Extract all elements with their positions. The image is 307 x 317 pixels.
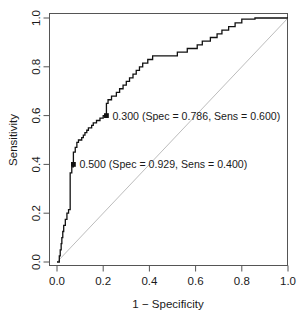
x-tick-label: 0.2 [95,275,111,287]
y-axis-title: Sensitivity [7,114,19,166]
threshold-label: 0.500 (Spec = 0.929, Sens = 0.400) [79,158,247,170]
x-tick-label: 0.0 [49,275,65,287]
x-tick-label: 0.4 [141,275,158,287]
roc-chart: 0.00.20.40.60.81.0 0.00.20.40.60.81.0 0.… [0,0,307,317]
y-tick-label: 0.0 [30,254,42,270]
threshold-label: 0.300 (Spec = 0.786, Sens = 0.600) [112,110,280,122]
x-axis-title: 1 − Specificity [132,298,204,310]
y-tick-label: 0.4 [30,156,42,173]
y-tick-label: 0.2 [30,205,42,221]
threshold-marker [104,113,109,118]
x-tick-label: 0.8 [234,275,250,287]
y-tick-label: 0.6 [30,108,42,124]
y-tick-label: 0.8 [30,59,42,75]
y-tick-label: 1.0 [30,10,42,26]
x-tick-label: 0.6 [188,275,204,287]
roc-plot-panel: 0.00.20.40.60.81.0 0.00.20.40.60.81.0 0.… [0,0,307,317]
threshold-marker [71,162,76,167]
x-tick-label: 1.0 [280,275,296,287]
